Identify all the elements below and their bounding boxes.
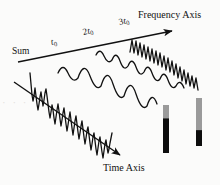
time-axis-arrow — [14, 82, 120, 155]
fourier-decomposition-figure: Frequency Axis Time Axis Sum t0 2t0 3t0 … — [0, 0, 220, 185]
time-axis-label: Time Axis — [103, 163, 145, 173]
frequency-axis-label: Frequency Axis — [138, 10, 201, 20]
level-bar-1 — [163, 105, 169, 153]
sum-label: Sum — [12, 47, 29, 57]
level-bar-2 — [196, 98, 202, 146]
level-bar-2-fill — [196, 130, 202, 146]
waveform-harmonic-3 — [130, 40, 198, 90]
harmonic-3-label: 3t0 — [118, 16, 130, 27]
level-bar-1-fill — [163, 118, 169, 153]
harmonic-2-label: 2t0 — [82, 26, 94, 37]
figure-canvas — [0, 0, 220, 185]
waveform-sum — [30, 73, 112, 158]
